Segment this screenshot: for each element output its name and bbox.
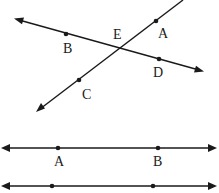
label-c: C: [82, 87, 91, 102]
point-right: [151, 184, 156, 189]
arrowhead-left-icon: [14, 18, 24, 25]
point-a: [154, 19, 159, 24]
point-c: [77, 78, 82, 83]
geometry-diagram: B E A D C A B: [0, 0, 219, 193]
point-d: [157, 57, 162, 62]
label-b: B: [153, 154, 162, 169]
arrowhead-right-icon: [208, 144, 217, 152]
line-ab-figure: A B: [1, 144, 217, 169]
arrowhead-right-icon: [208, 182, 217, 190]
point-a: [56, 146, 61, 151]
label-e: E: [113, 27, 122, 42]
point-b: [156, 146, 161, 151]
line-bd: [19, 20, 199, 70]
line-ca: [40, 0, 183, 109]
label-b: B: [63, 41, 72, 56]
arrowhead-left-icon: [1, 144, 10, 152]
bottom-line-figure: [1, 182, 217, 190]
point-b: [64, 32, 69, 37]
point-left: [50, 184, 55, 189]
arrowhead-left-icon: [1, 182, 10, 190]
intersecting-lines-figure: B E A D C: [14, 0, 204, 112]
label-d: D: [153, 65, 163, 80]
label-a: A: [158, 26, 169, 41]
label-a: A: [54, 154, 65, 169]
arrowhead-down-left-icon: [36, 103, 45, 112]
arrowhead-right-icon: [194, 66, 204, 73]
